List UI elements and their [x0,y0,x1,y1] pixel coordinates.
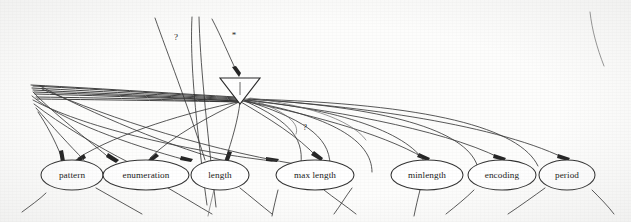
arrowhead-enumeration-left [106,153,119,163]
edge-below-5 [272,190,278,216]
node-enumeration-label: enumeration [122,170,169,180]
node-period-label: period [555,170,579,180]
arrowhead-connector-in [232,66,241,77]
edge-connector-pattern [78,102,238,158]
edge-below-8 [414,190,420,216]
node-length[interactable]: length [191,160,249,190]
node-enumeration[interactable]: enumeration [103,160,189,190]
edge-below-4 [240,188,272,214]
arrowhead-length-left [180,156,193,162]
edge-below-2 [96,188,142,214]
edge-below-12 [208,190,214,216]
edges-connector-to-nodes [74,99,570,163]
edge-top-right-stray [590,12,604,66]
edge-incoming-a [155,18,205,160]
diagram-canvas: pattern enumeration length max length mi… [0,0,631,222]
edge-label-optional-left: ? [174,32,178,42]
edge-cross-4 [34,104,128,162]
node-minlength-label: minlength [408,170,446,180]
edge-cross-6 [38,112,62,158]
edge-below-6 [324,190,356,214]
edge-below-10 [508,188,545,214]
edge-connector-period [244,99,564,158]
edge-below-7 [334,188,352,214]
edge-cross-2 [32,96,186,160]
node-length-label: length [208,170,232,180]
node-period[interactable]: period [539,160,595,190]
edge-label-optional-lower: ? [303,122,307,132]
graph-svg: pattern enumeration length max length mi… [0,0,631,222]
edge-incoming-star [212,19,236,70]
edge-below-9 [446,190,474,214]
node-pattern-label: pattern [59,170,86,180]
edge-label-repeat-star: * [232,30,237,40]
node-maxlength[interactable]: max length [276,160,354,190]
edge-below-11 [592,190,614,214]
node-encoding[interactable]: encoding [468,160,536,190]
node-minlength[interactable]: minlength [391,160,463,190]
edge-connector-length [226,102,240,158]
node-maxlength-label: max length [294,170,336,180]
edge-below-1 [22,193,46,212]
edges-below-nodes [22,188,614,216]
edge-bundle-left [31,85,240,102]
node-encoding-label: encoding [485,170,520,180]
node-pattern[interactable]: pattern [41,160,103,190]
